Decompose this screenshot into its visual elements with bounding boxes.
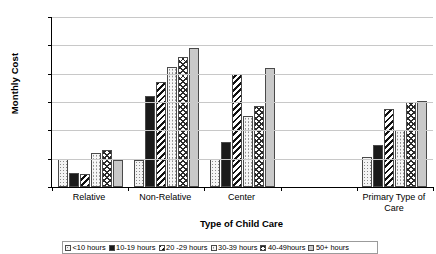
x-axis-tick (204, 187, 205, 191)
x-axis-category-label (280, 192, 356, 214)
bar[interactable] (384, 109, 394, 187)
legend-swatch-icon (65, 245, 71, 251)
gridline (52, 102, 433, 103)
bar[interactable] (406, 102, 416, 187)
legend-label: 20 -29 hours (166, 243, 208, 252)
bar[interactable] (167, 67, 177, 187)
legend-swatch-icon (109, 245, 115, 251)
x-axis-category-label: Relative (51, 192, 127, 214)
legend-item[interactable]: 50+ hours (308, 243, 349, 252)
plot-area (51, 17, 433, 188)
y-axis-tick (48, 159, 52, 160)
y-axis-title: Monthly Cost (9, 42, 20, 126)
y-axis-tick (48, 74, 52, 75)
bar-chart: Monthly Cost RelativeNon-RelativeCenterP… (0, 0, 436, 254)
x-axis-category-label: Non-Relative (127, 192, 203, 214)
x-axis-title: Type of Child Care (51, 218, 432, 229)
gridline (52, 45, 433, 46)
legend-label: 10-19 hours (116, 243, 155, 252)
legend-label: 50+ hours (316, 243, 349, 252)
legend-item[interactable]: 10-19 hours (109, 243, 156, 252)
legend-swatch-icon (308, 245, 314, 251)
gridline (52, 74, 433, 75)
bar[interactable] (373, 145, 383, 188)
legend-item[interactable]: 40-49hours (260, 243, 305, 252)
legend-item[interactable]: 20 -29 hours (159, 243, 208, 252)
bar[interactable] (102, 150, 112, 187)
x-axis-tick (433, 187, 434, 191)
bar[interactable] (134, 160, 144, 187)
y-axis-tick (48, 102, 52, 103)
bar[interactable] (221, 142, 231, 187)
legend-swatch-icon (159, 245, 165, 251)
bar[interactable] (178, 57, 188, 187)
y-axis-tick (48, 45, 52, 46)
bar[interactable] (265, 68, 275, 187)
legend-label: 30-39 hours (218, 243, 257, 252)
legend-label: <10 hours (73, 243, 106, 252)
legend-swatch-icon (211, 245, 217, 251)
bar[interactable] (362, 157, 372, 187)
gridline (52, 130, 433, 131)
bar[interactable] (243, 116, 253, 187)
bar[interactable] (156, 82, 166, 187)
x-axis-tick (281, 187, 282, 191)
x-axis-category-label: Center (203, 192, 279, 214)
bar[interactable] (145, 96, 155, 187)
x-axis-category-label: Primary Type of Care (356, 192, 432, 214)
legend-swatch-icon (260, 245, 266, 251)
y-axis-tick (48, 130, 52, 131)
legend-label: 40-49hours (268, 243, 305, 252)
bar[interactable] (254, 106, 264, 187)
bar[interactable] (417, 101, 427, 187)
bar[interactable] (58, 159, 68, 187)
legend-item[interactable]: <10 hours (65, 243, 106, 252)
x-axis-labels: RelativeNon-RelativeCenterPrimary Type o… (51, 192, 432, 214)
gridline (52, 159, 433, 160)
bar[interactable] (210, 159, 220, 187)
bar[interactable] (69, 173, 79, 187)
x-axis-tick (357, 187, 358, 191)
gridline (52, 17, 433, 18)
x-axis-tick (128, 187, 129, 191)
bar[interactable] (189, 48, 199, 187)
bar[interactable] (113, 160, 123, 187)
x-axis-tick (52, 187, 53, 191)
bar[interactable] (80, 174, 90, 187)
legend-item[interactable]: 30-39 hours (211, 243, 258, 252)
y-axis-tick (48, 17, 52, 18)
chart-legend: <10 hours10-19 hours20 -29 hours30-39 ho… (62, 241, 378, 254)
